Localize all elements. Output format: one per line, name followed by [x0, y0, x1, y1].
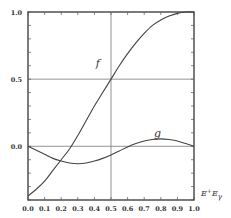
curve-label-f: f	[95, 57, 102, 70]
y-tick-label: 0.0	[11, 143, 23, 151]
x-tick-label: 0.8	[155, 205, 167, 213]
x-tick-label: 0.9	[172, 205, 184, 213]
x-tick-label: 0.1	[39, 205, 50, 213]
x-tick-label: 0.2	[56, 205, 67, 213]
y-tick-label: 0.5	[11, 76, 23, 84]
x-tick-label: 0.6	[122, 205, 134, 213]
x-tick-label: 1.0	[188, 205, 200, 213]
x-axis-title: E+Eγ	[200, 187, 223, 201]
x-tick-label: 0.7	[139, 205, 150, 213]
line-chart: 0.00.10.20.30.40.50.60.70.80.91.01.00.50…	[0, 0, 231, 218]
curve-label-g: g	[154, 127, 161, 140]
y-tick-label: 1.0	[11, 9, 23, 17]
axis-labels: 0.00.10.20.30.40.50.60.70.80.91.01.00.50…	[11, 9, 223, 214]
reference-lines	[28, 12, 194, 200]
x-tick-label: 0.4	[89, 205, 101, 213]
x-tick-label: 0.3	[72, 205, 84, 213]
x-tick-label: 0.0	[22, 205, 34, 213]
x-tick-label: 0.5	[105, 205, 117, 213]
